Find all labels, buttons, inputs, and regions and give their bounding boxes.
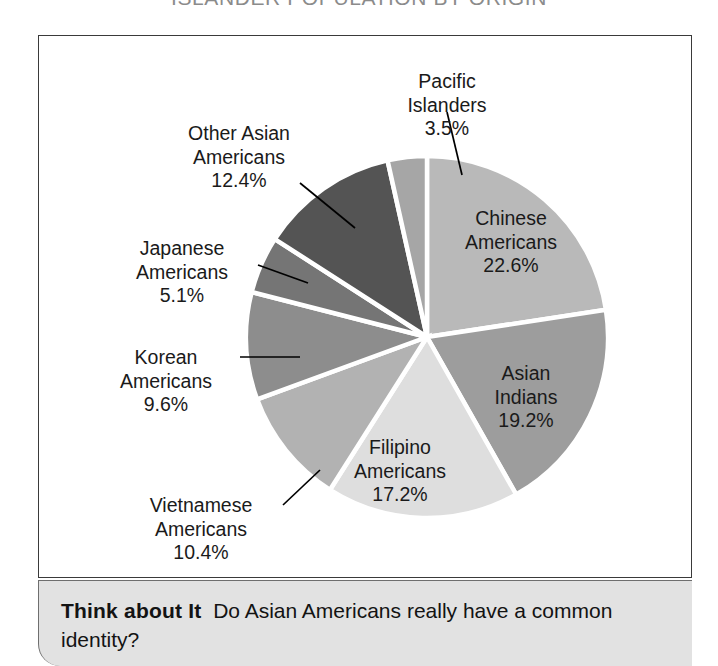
- label-asian-indians: Asian Indians 19.2%: [470, 362, 582, 433]
- label-asian-indians-pct: 19.2%: [470, 409, 582, 433]
- label-filipino-americans: Filipino Americans 17.2%: [333, 436, 467, 507]
- label-other-asian-americans-line1: Other Asian: [168, 122, 310, 146]
- label-asian-indians-line1: Asian: [470, 362, 582, 386]
- label-pacific-islanders-line2: Islanders: [388, 94, 506, 118]
- label-filipino-americans-line1: Filipino: [333, 436, 467, 460]
- label-filipino-americans-line2: Americans: [333, 460, 467, 484]
- label-filipino-americans-pct: 17.2%: [333, 483, 467, 507]
- label-pacific-islanders-line1: Pacific: [388, 70, 506, 94]
- label-vietnamese-americans-line1: Vietnamese: [122, 494, 280, 518]
- label-chinese-americans-pct: 22.6%: [444, 254, 578, 278]
- label-asian-indians-line2: Indians: [470, 386, 582, 410]
- label-chinese-americans: Chinese Americans 22.6%: [444, 207, 578, 278]
- label-other-asian-americans-pct: 12.4%: [168, 169, 310, 193]
- think-about-it-band: Think about It Do Asian Americans really…: [38, 580, 692, 666]
- chart-title: ISLANDER POPULATION BY ORIGIN: [0, 0, 718, 8]
- label-korean-americans-line1: Korean: [100, 346, 232, 370]
- think-about-it-text: Think about It Do Asian Americans really…: [61, 596, 692, 654]
- label-korean-americans-pct: 9.6%: [100, 393, 232, 417]
- label-korean-americans: Korean Americans 9.6%: [100, 346, 232, 417]
- label-japanese-americans-line2: Americans: [116, 261, 248, 285]
- label-chinese-americans-line1: Chinese: [444, 207, 578, 231]
- label-japanese-americans-pct: 5.1%: [116, 284, 248, 308]
- think-about-it-label: Think about It: [61, 599, 201, 622]
- label-other-asian-americans-line2: Americans: [168, 146, 310, 170]
- label-vietnamese-americans: Vietnamese Americans 10.4%: [122, 494, 280, 565]
- label-vietnamese-americans-pct: 10.4%: [122, 541, 280, 565]
- label-pacific-islanders-pct: 3.5%: [388, 117, 506, 141]
- label-pacific-islanders: Pacific Islanders 3.5%: [388, 70, 506, 141]
- label-other-asian-americans: Other Asian Americans 12.4%: [168, 122, 310, 193]
- label-chinese-americans-line2: Americans: [444, 231, 578, 255]
- label-japanese-americans-line1: Japanese: [116, 237, 248, 261]
- label-japanese-americans: Japanese Americans 5.1%: [116, 237, 248, 308]
- label-korean-americans-line2: Americans: [100, 370, 232, 394]
- label-vietnamese-americans-line2: Americans: [122, 518, 280, 542]
